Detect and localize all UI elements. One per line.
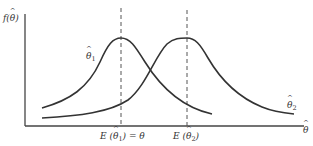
- diagram-canvas: [0, 0, 313, 146]
- marker-label-theta2: E (θ2): [173, 132, 199, 143]
- curve-label-theta-hat-2: θ2: [287, 101, 297, 112]
- x-axis-label: θ: [303, 126, 308, 135]
- curve-label-theta-hat-1: θ1: [86, 52, 96, 63]
- curve-theta-hat-2: [42, 38, 294, 118]
- y-axis-label: f(θ): [3, 14, 19, 23]
- marker-label-theta1: E (θ1) = θ: [100, 132, 145, 143]
- estimator-density-diagram: f(θ) θ1 θ2 θ E (θ1) = θ E (θ2): [0, 0, 313, 146]
